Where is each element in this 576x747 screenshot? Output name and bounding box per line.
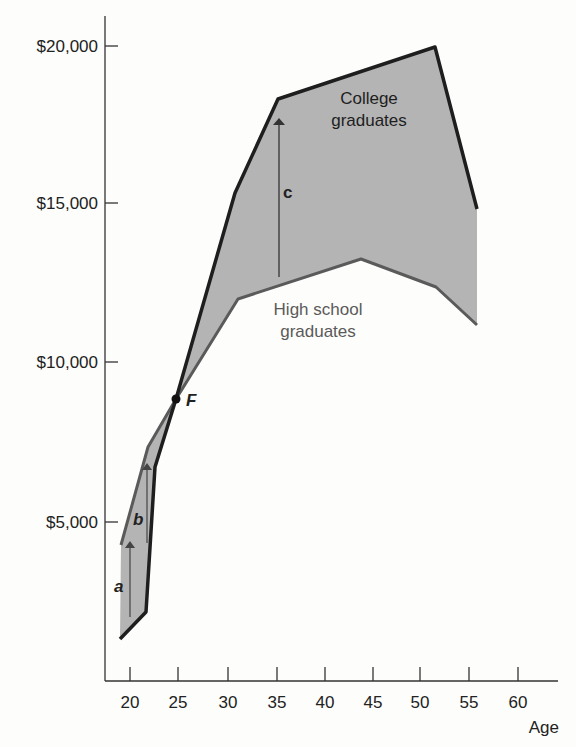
x-tick-label: 45 (364, 693, 383, 712)
annotation-a: a (114, 577, 123, 596)
x-tick-label: 55 (460, 693, 479, 712)
x-ticks (130, 667, 518, 681)
annotation-c: c (283, 183, 292, 202)
annotation-b: b (133, 510, 143, 529)
x-axis-title: Age (529, 718, 559, 737)
x-tick-label: 40 (316, 693, 335, 712)
college-label-line2: graduates (331, 111, 407, 130)
x-tick-label: 50 (411, 693, 430, 712)
x-tick-label: 60 (509, 693, 528, 712)
x-tick-label: 30 (219, 693, 238, 712)
y-tick-label: $20,000 (37, 37, 98, 56)
x-tick-label: 20 (121, 693, 140, 712)
chart-canvas: $20,000 $15,000 $10,000 $5,000 20 25 30 … (0, 0, 576, 747)
x-tick-label: 35 (268, 693, 287, 712)
annotation-f: F (186, 391, 197, 410)
y-tick-label: $15,000 (37, 194, 98, 213)
high-school-label-line2: graduates (280, 322, 356, 341)
point-f-marker (172, 395, 181, 404)
x-tick-label: 25 (169, 693, 188, 712)
college-label-line1: College (340, 89, 398, 108)
y-tick-label: $10,000 (37, 353, 98, 372)
income-gap-area (120, 47, 477, 639)
y-tick-label: $5,000 (46, 513, 98, 532)
high-school-label-line1: High school (274, 300, 363, 319)
y-ticks (105, 46, 118, 522)
